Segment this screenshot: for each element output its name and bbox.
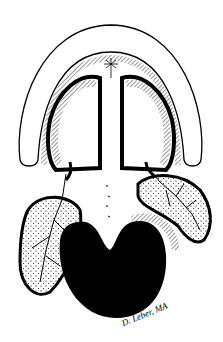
anatomical-illustration xyxy=(0,0,223,342)
